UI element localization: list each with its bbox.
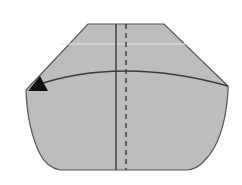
paper-shape: [26, 24, 228, 170]
origami-diagram: [0, 0, 242, 185]
